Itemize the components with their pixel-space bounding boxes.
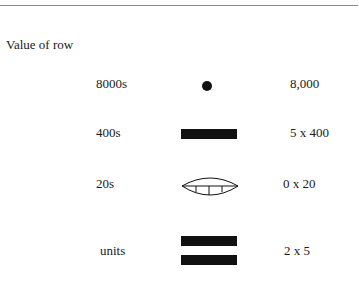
row-label-8000s: 8000s [96,76,127,92]
column-heading: Value of row [6,38,76,52]
row-value-units: 2 x 5 [284,243,310,259]
row-value-400s: 5 x 400 [290,125,329,141]
row-value-8000s: 8,000 [290,76,319,92]
row-label-20s: 20s [96,176,114,192]
row-value-20s: 0 x 20 [283,176,316,192]
top-rule [0,5,358,6]
row-label-units: units [100,243,125,259]
bar-icon [181,129,237,139]
dot-icon [202,81,212,91]
bar-icon [181,236,237,246]
shell-icon [180,174,240,200]
bar-icon [181,255,237,265]
row-label-400s: 400s [96,125,121,141]
